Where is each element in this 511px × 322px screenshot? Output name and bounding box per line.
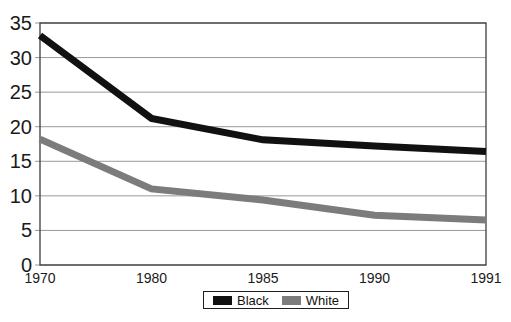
y-tick-label: 25	[10, 81, 32, 103]
y-tick-label: 35	[10, 12, 32, 34]
plot-frame	[40, 23, 486, 265]
x-tick-label: 1990	[359, 270, 390, 286]
legend-label-black: Black	[237, 294, 269, 307]
y-tick-label: 30	[10, 47, 32, 69]
x-tick-label: 1980	[136, 270, 167, 286]
legend-label-white: White	[306, 294, 339, 307]
legend: Black White	[203, 291, 349, 309]
plot-area: 0510152025303519701980198519901991	[0, 0, 511, 322]
legend-swatch-black	[213, 296, 232, 305]
x-tick-label: 1985	[247, 270, 278, 286]
line-chart: 0510152025303519701980198519901991 Black…	[0, 0, 511, 322]
legend-item-black: Black	[213, 294, 269, 307]
y-tick-label: 10	[10, 185, 32, 207]
legend-item-white: White	[282, 294, 339, 307]
x-tick-label: 1970	[24, 270, 55, 286]
y-tick-label: 20	[10, 116, 32, 138]
y-tick-label: 5	[21, 219, 32, 241]
y-tick-label: 15	[10, 150, 32, 172]
x-tick-label: 1991	[470, 270, 501, 286]
legend-swatch-white	[282, 296, 301, 305]
series-line-black	[40, 35, 486, 151]
